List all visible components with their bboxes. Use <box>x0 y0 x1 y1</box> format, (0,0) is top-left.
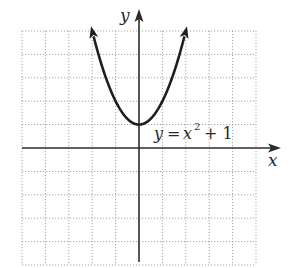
curve-equation-label: y = x 2 + 1 <box>153 121 233 143</box>
equation-exponent: 2 <box>194 121 200 132</box>
equation-rest: + 1 <box>204 124 233 143</box>
equation-x: x <box>183 124 192 143</box>
y-axis <box>135 9 144 262</box>
equation-equals: = <box>167 124 180 143</box>
x-axis-label: x <box>268 150 278 170</box>
parabola-graph: y x y = x 2 + 1 <box>0 0 294 268</box>
equation-y: y <box>153 124 164 143</box>
y-axis-label: y <box>119 5 130 25</box>
x-axis <box>22 144 281 153</box>
